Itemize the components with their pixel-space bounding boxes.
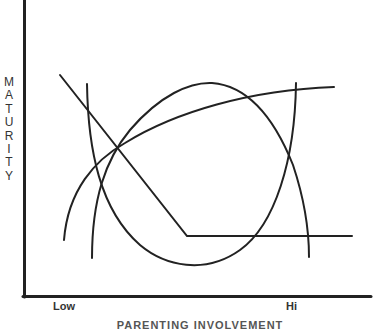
x-axis-title: PARENTING INVOLVEMENT <box>100 319 300 331</box>
declining-line <box>60 75 352 236</box>
u-curve <box>87 83 296 265</box>
rising-curve <box>64 87 334 240</box>
x-tick-low: Low <box>53 300 75 312</box>
x-tick-hi: Hi <box>286 300 297 312</box>
